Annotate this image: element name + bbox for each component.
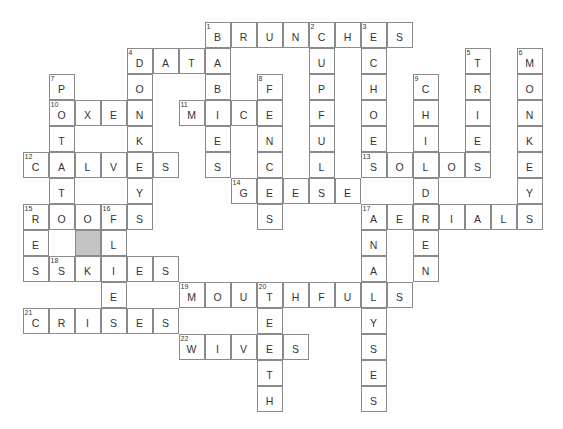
crossword-cell[interactable]: O [439,152,465,178]
crossword-cell[interactable]: K [517,126,543,152]
crossword-cell[interactable]: O [361,100,387,126]
crossword-cell[interactable]: 4D [127,48,153,74]
crossword-cell[interactable]: R [465,74,491,100]
crossword-cell[interactable]: N [257,126,283,152]
crossword-cell[interactable]: O [517,74,543,100]
crossword-cell[interactable]: C [257,152,283,178]
crossword-cell[interactable]: 20T [257,282,283,308]
crossword-cell[interactable]: S [127,204,153,230]
crossword-cell[interactable]: O [49,204,75,230]
crossword-cell[interactable]: T [49,178,75,204]
crossword-cell[interactable]: A [465,204,491,230]
crossword-cell[interactable]: 22W [179,334,205,360]
crossword-cell[interactable]: 14G [231,178,257,204]
crossword-cell[interactable]: L [491,204,517,230]
crossword-cell[interactable]: F [309,100,335,126]
crossword-cell[interactable]: H [283,282,309,308]
crossword-cell[interactable]: S [517,204,543,230]
crossword-cell[interactable]: 1B [205,22,231,48]
crossword-cell[interactable]: Y [127,178,153,204]
crossword-cell[interactable]: 9C [413,74,439,100]
crossword-cell[interactable]: K [127,126,153,152]
crossword-cell[interactable]: E [257,308,283,334]
crossword-cell[interactable]: N [361,230,387,256]
crossword-cell[interactable]: N [517,100,543,126]
crossword-cell[interactable]: N [283,22,309,48]
crossword-cell[interactable]: L [413,152,439,178]
crossword-cell[interactable]: 2C [309,22,335,48]
crossword-cell[interactable]: D [413,178,439,204]
crossword-cell[interactable]: E [23,230,49,256]
crossword-cell[interactable]: U [231,282,257,308]
crossword-cell[interactable]: S [153,256,179,282]
crossword-cell[interactable]: 10O [49,100,75,126]
crossword-cell[interactable]: L [361,282,387,308]
crossword-cell[interactable]: X [75,100,101,126]
crossword-cell[interactable]: U [309,126,335,152]
crossword-cell[interactable]: I [205,334,231,360]
crossword-cell[interactable]: U [309,48,335,74]
crossword-cell[interactable]: S [361,334,387,360]
crossword-cell[interactable]: E [413,230,439,256]
crossword-cell[interactable]: S [387,282,413,308]
crossword-cell[interactable]: A [153,48,179,74]
crossword-cell[interactable]: S [361,386,387,412]
crossword-cell[interactable]: E [205,126,231,152]
crossword-cell[interactable]: V [101,152,127,178]
crossword-cell[interactable]: E [127,152,153,178]
crossword-cell[interactable]: H [335,22,361,48]
crossword-cell[interactable]: 17A [361,204,387,230]
crossword-cell[interactable]: A [205,48,231,74]
crossword-cell[interactable]: E [517,152,543,178]
crossword-cell[interactable]: S [387,22,413,48]
crossword-cell[interactable]: C [231,100,257,126]
crossword-cell[interactable]: H [257,386,283,412]
crossword-cell[interactable]: E [101,100,127,126]
crossword-cell[interactable]: T [257,360,283,386]
crossword-cell[interactable]: V [231,334,257,360]
crossword-cell[interactable]: E [257,100,283,126]
crossword-cell[interactable]: T [179,48,205,74]
crossword-cell[interactable]: E [361,126,387,152]
crossword-cell[interactable]: Y [361,308,387,334]
crossword-cell[interactable]: S [153,308,179,334]
crossword-cell[interactable]: E [127,256,153,282]
crossword-cell[interactable]: 8F [257,74,283,100]
crossword-cell[interactable]: E [127,308,153,334]
crossword-cell[interactable]: Y [517,178,543,204]
crossword-cell[interactable]: E [283,178,309,204]
crossword-cell[interactable]: 11M [179,100,205,126]
crossword-cell[interactable]: L [309,152,335,178]
crossword-cell[interactable]: S [283,334,309,360]
crossword-cell[interactable]: I [205,100,231,126]
crossword-cell[interactable]: 7P [49,74,75,100]
crossword-cell[interactable]: A [49,152,75,178]
crossword-cell[interactable]: E [335,178,361,204]
crossword-cell[interactable]: S [205,152,231,178]
crossword-cell[interactable]: I [413,126,439,152]
crossword-cell[interactable]: B [205,74,231,100]
crossword-cell[interactable]: U [257,22,283,48]
crossword-cell[interactable]: E [257,334,283,360]
crossword-cell[interactable]: I [75,308,101,334]
crossword-cell[interactable]: O [205,282,231,308]
crossword-cell[interactable]: I [439,204,465,230]
crossword-cell[interactable]: E [387,204,413,230]
crossword-cell[interactable]: L [75,152,101,178]
crossword-cell[interactable]: A [361,256,387,282]
crossword-cell[interactable]: T [49,126,75,152]
crossword-cell[interactable]: 5T [465,48,491,74]
crossword-cell[interactable]: 13S [361,152,387,178]
crossword-cell[interactable]: O [75,204,101,230]
crossword-cell[interactable]: 16F [101,204,127,230]
crossword-cell[interactable]: S [153,152,179,178]
crossword-cell[interactable]: R [413,204,439,230]
crossword-cell[interactable]: S [101,308,127,334]
crossword-cell[interactable]: E [101,282,127,308]
crossword-cell[interactable]: F [309,282,335,308]
crossword-cell[interactable]: S [309,178,335,204]
crossword-cell[interactable]: S [23,256,49,282]
crossword-cell[interactable]: 21C [23,308,49,334]
crossword-cell[interactable]: H [361,74,387,100]
crossword-cell[interactable]: I [465,100,491,126]
